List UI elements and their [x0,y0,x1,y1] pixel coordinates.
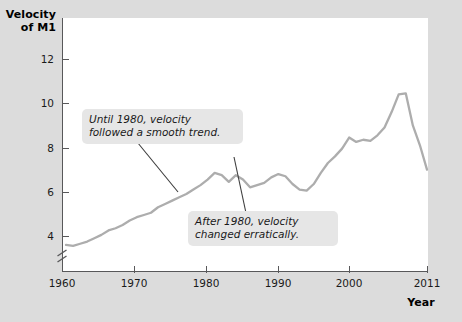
y-axis-title-line2: of M1 [0,21,56,34]
x-tick-label-2011: 2011 [402,277,452,289]
x-tick-mark-2000 [349,266,350,273]
x-tick-label-1990: 1990 [253,277,303,289]
y-tick-label-4: 4 [14,230,54,242]
y-axis-title-line1: Velocity [0,8,56,21]
x-tick-mark-1990 [278,266,279,273]
y-tick-label-12: 12 [14,53,54,65]
y-tick-mark-12 [62,59,69,60]
y-tick-mark-6 [62,192,69,193]
y-tick-label-10: 10 [14,97,54,109]
y-axis-title: Velocity of M1 [0,8,56,34]
chart-figure: Velocity of M1 Year 4 6 8 10 12 1960 197… [0,0,462,322]
x-tick-label-1980: 1980 [181,277,231,289]
y-tick-mark-10 [62,103,69,104]
y-tick-mark-8 [62,148,69,149]
x-axis-title: Year [392,296,450,309]
y-tick-label-6: 6 [14,186,54,198]
x-tick-mark-1970 [134,266,135,273]
x-tick-label-2000: 2000 [324,277,374,289]
annotation-post-1980: After 1980, velocity changed erratically… [188,211,338,246]
y-tick-label-8: 8 [14,142,54,154]
x-tick-label-1970: 1970 [109,277,159,289]
x-tick-mark-1980 [206,266,207,273]
x-tick-label-1960: 1960 [37,277,87,289]
annotation-pre-1980: Until 1980, velocity followed a smooth t… [82,109,243,144]
y-tick-mark-4 [62,236,69,237]
x-tick-mark-2011 [427,266,428,273]
